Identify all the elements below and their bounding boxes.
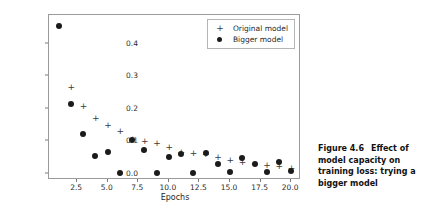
legend-item-bigger-model[interactable]: Bigger model — [212, 34, 288, 45]
x-axis-tick-label: 10.0 — [160, 183, 177, 192]
data-point — [276, 159, 282, 165]
y-axis-tick-label: 0.0 — [126, 168, 138, 177]
data-point — [80, 131, 86, 137]
data-point — [68, 83, 75, 90]
y-axis-tick-label: 0.4 — [126, 39, 138, 48]
legend-item-original-model[interactable]: + Original model — [212, 23, 288, 34]
plot-area: + Original model Bigger model — [48, 14, 300, 179]
x-axis-tick-mark — [290, 179, 291, 182]
x-axis-title: Epochs — [0, 193, 350, 202]
y-axis-tick-mark — [45, 75, 48, 76]
y-axis-tick-mark — [45, 172, 48, 173]
data-point — [239, 155, 245, 161]
figure-caption: Figure 4.6Effect of model capacity on tr… — [318, 143, 438, 189]
x-axis-tick-label: 5.0 — [101, 183, 113, 192]
data-point — [56, 23, 62, 29]
data-point — [227, 156, 234, 163]
plus-marker-icon: + — [212, 23, 228, 34]
data-point — [190, 170, 196, 176]
data-point — [141, 147, 147, 153]
y-axis-tick-label: 0.3 — [126, 71, 138, 80]
figure-container: + Original model Bigger model 0.00.10.20… — [0, 0, 441, 222]
x-axis-tick-mark — [137, 179, 138, 182]
data-point — [165, 144, 172, 151]
chart-legend: + Original model Bigger model — [207, 19, 295, 49]
data-point — [68, 101, 74, 107]
x-axis-tick-mark — [168, 179, 169, 182]
data-point — [92, 153, 98, 159]
data-point — [214, 154, 221, 161]
legend-label-bigger-model: Bigger model — [228, 35, 283, 44]
data-point — [80, 103, 87, 110]
data-point — [263, 162, 270, 169]
legend-label-original-model: Original model — [228, 24, 288, 33]
data-point — [203, 150, 209, 156]
x-axis-tick-label: 2.5 — [70, 183, 82, 192]
y-axis-tick-mark — [45, 43, 48, 44]
data-point — [178, 151, 184, 157]
data-point — [116, 128, 123, 135]
x-axis-tick-mark — [107, 179, 108, 182]
data-point — [104, 121, 111, 128]
x-axis-tick-mark — [229, 179, 230, 182]
data-point — [215, 161, 221, 167]
data-point — [264, 169, 270, 175]
data-point — [117, 170, 123, 176]
x-axis-tick-label: 12.5 — [190, 183, 207, 192]
x-axis-tick-label: 17.5 — [251, 183, 268, 192]
data-point — [227, 169, 233, 175]
data-point — [153, 140, 160, 147]
data-point — [166, 154, 172, 160]
x-axis-tick-mark — [198, 179, 199, 182]
data-point — [252, 161, 258, 167]
x-axis-tick-label: 20.0 — [282, 183, 299, 192]
y-axis-tick-label: 0.1 — [126, 136, 138, 145]
x-axis-tick-label: 7.5 — [131, 183, 143, 192]
figure-caption-number: Figure 4.6 — [318, 144, 364, 153]
data-point — [154, 170, 160, 176]
x-axis-tick-label: 15.0 — [221, 183, 238, 192]
x-axis-tick-mark — [260, 179, 261, 182]
data-point — [92, 114, 99, 121]
data-point — [141, 137, 148, 144]
data-point — [288, 168, 294, 174]
data-point — [105, 149, 111, 155]
y-axis-tick-mark — [45, 140, 48, 141]
dot-marker-icon — [212, 37, 228, 42]
data-point — [190, 150, 197, 157]
y-axis-tick-mark — [45, 107, 48, 108]
y-axis-tick-label: 0.2 — [126, 103, 138, 112]
x-axis-tick-mark — [76, 179, 77, 182]
